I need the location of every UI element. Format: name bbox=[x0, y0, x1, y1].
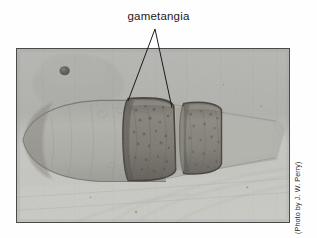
photomicrograph-frame bbox=[16, 48, 290, 223]
figure-gametangia: gametangia bbox=[0, 0, 317, 238]
photomicrograph-image bbox=[17, 49, 289, 222]
photo-credit: (Photo by J. W. Perry) bbox=[292, 222, 317, 234]
figure-label-gametangia: gametangia bbox=[0, 10, 317, 22]
